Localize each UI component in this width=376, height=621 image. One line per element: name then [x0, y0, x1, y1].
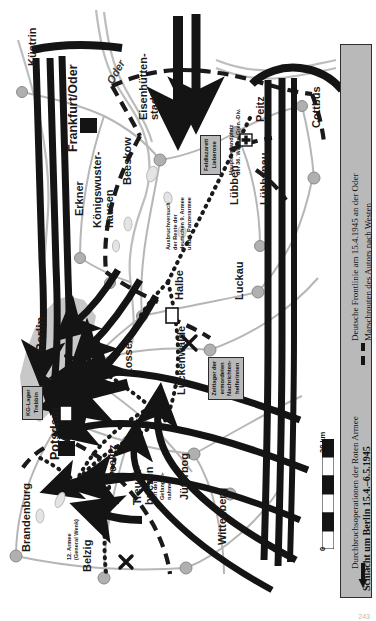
- page-number: 243: [358, 613, 370, 620]
- historical-map: KüstrinFrankfurt/OderEisenhütten-stadtPe…: [0, 0, 376, 621]
- legend-dotted-symbol: [371, 341, 372, 367]
- legend-item-1-label: Deutsche Frontlinie am 15.4.1945 an der …: [350, 174, 360, 341]
- legend-item-0-label: Durchbruchsoperationen der Roten Armee: [350, 416, 360, 569]
- legend-item-2-label: Marschrouten des Autors nach Westen: [363, 203, 372, 341]
- legend-dashed-symbol: [358, 341, 368, 367]
- scale-min-label: 0: [318, 547, 327, 551]
- legend-arrow-symbol: [358, 563, 368, 589]
- scale-bar: 30 km 0: [322, 439, 334, 549]
- legend-panel: Schlacht um Berlin 15.4.–6.5.1945 Durchb…: [340, 44, 372, 598]
- map-canvas: [0, 0, 376, 621]
- scale-max-label: 30 km: [318, 432, 327, 453]
